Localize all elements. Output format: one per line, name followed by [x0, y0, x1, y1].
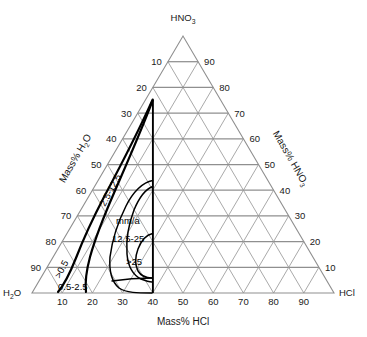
axis-title-bottom: Mass% HCl: [157, 316, 209, 327]
tick-right-90: 90: [204, 56, 215, 67]
tick-left-50: 50: [91, 159, 102, 170]
grid-line: [304, 267, 319, 293]
tick-left-30: 30: [121, 108, 132, 119]
tick-right-20: 20: [310, 236, 321, 247]
corner-label-h2o: H2O: [3, 287, 21, 300]
tick-bottom-90: 90: [299, 296, 310, 307]
grid-line: [183, 165, 259, 294]
tick-bottom-40: 40: [148, 296, 159, 307]
tick-right-10: 10: [325, 262, 336, 273]
grid-line: [168, 62, 304, 293]
grid-lines: [47, 62, 319, 293]
tick-right-70: 70: [234, 108, 245, 119]
grid-line: [243, 216, 288, 293]
corner-label-hcl: HCl: [339, 287, 355, 298]
tick-left-90: 90: [31, 262, 42, 273]
contour-label-12-5-to-25: 12.5-25: [112, 233, 144, 244]
tick-right-40: 40: [280, 185, 291, 196]
tick-right-50: 50: [265, 159, 276, 170]
tick-bottom-50: 50: [178, 296, 189, 307]
apex-label-hno3: HNO3: [171, 12, 196, 25]
tick-right-60: 60: [249, 133, 260, 144]
tick-left-20: 20: [136, 82, 147, 93]
ternary-diagram: 102030405060708090 102030405060708090 90…: [0, 0, 367, 337]
tick-bottom-70: 70: [238, 296, 249, 307]
tick-left-40: 40: [106, 133, 117, 144]
tick-bottom-10: 10: [57, 296, 68, 307]
tick-left-70: 70: [61, 210, 72, 221]
contour-label-0-5-to-2-5: 0.5-2.5: [58, 281, 88, 292]
tick-left-10: 10: [151, 56, 162, 67]
axis-title-left: Mass% H2O: [57, 132, 95, 186]
tick-bottom-60: 60: [208, 296, 219, 307]
tick-bottom-20: 20: [87, 296, 98, 307]
tick-left-60: 60: [76, 185, 87, 196]
tick-right-80: 80: [219, 82, 230, 93]
contour-label-gt-25: >25: [126, 256, 142, 267]
tick-bottom-80: 80: [268, 296, 279, 307]
unit-label-mm-per-a: mm/a: [116, 215, 140, 226]
tick-right-30: 30: [295, 210, 306, 221]
tick-left-80: 80: [46, 236, 57, 247]
axis-title-right: Mass% HNO3: [269, 129, 311, 189]
tick-bottom-30: 30: [117, 296, 128, 307]
bottom-tick-labels: 102030405060708090: [57, 296, 309, 307]
